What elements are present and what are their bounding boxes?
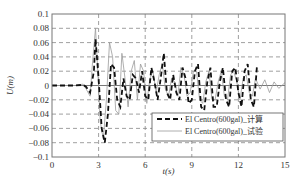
x-tick-label: 15	[281, 160, 291, 170]
x-tick-label: 0	[50, 160, 55, 170]
y-tick-label: 0.08	[33, 23, 49, 33]
y-tick-label: −0.06	[28, 123, 49, 133]
y-tick-label: −0.1	[33, 152, 49, 162]
x-tick-label: 3	[96, 160, 101, 170]
x-tick-label: 9	[190, 160, 195, 170]
y-axis-ticks: 0.10.080.060.040.020−0.02−0.04−0.06−0.08…	[28, 9, 49, 162]
y-tick-label: 0.02	[33, 66, 49, 76]
y-tick-label: 0.1	[38, 9, 49, 19]
x-axis-label: t(s)	[163, 166, 175, 176]
legend-entry-label: El Centro(600gal)_试验	[185, 126, 263, 136]
y-tick-label: 0	[45, 81, 50, 91]
x-tick-label: 6	[143, 160, 148, 170]
legend-entry-label: El Centro(600gal)_计算	[185, 114, 263, 124]
y-tick-label: −0.08	[28, 138, 49, 148]
legend: El Centro(600gal)_计算El Centro(600gal)_试验	[152, 113, 283, 141]
displacement-time-history-chart: 0.10.080.060.040.020−0.02−0.04−0.06−0.08…	[0, 0, 303, 176]
x-tick-label: 12	[234, 160, 243, 170]
y-tick-label: −0.04	[28, 109, 49, 119]
y-axis-label: U(m)	[5, 76, 15, 95]
y-tick-label: 0.06	[33, 38, 49, 48]
y-tick-label: 0.04	[33, 52, 49, 62]
y-tick-label: −0.02	[28, 95, 49, 105]
